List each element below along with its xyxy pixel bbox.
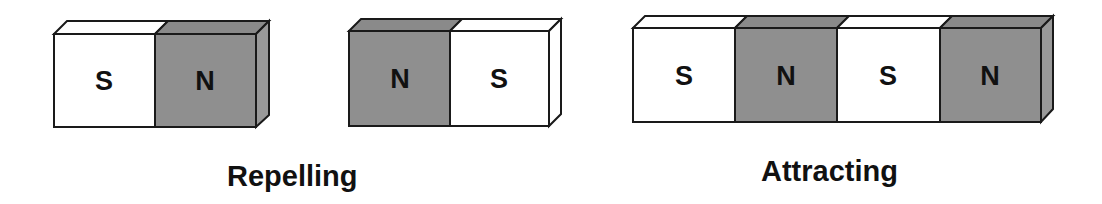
- magnet-3-side: [1041, 16, 1053, 122]
- magnet-2-north-label: N: [390, 64, 410, 94]
- magnet-1-north-top: [155, 21, 269, 34]
- magnet-3a-south-label: S: [675, 61, 693, 91]
- magnet-1-side: [256, 21, 269, 127]
- magnet-3b-north-label: N: [776, 61, 796, 91]
- magnet-2-side: [549, 19, 561, 126]
- magnet-1-south-top: [54, 21, 168, 34]
- magnet-diagram: S N N S S N S N: [0, 0, 1102, 204]
- magnet-3c-south-label: S: [879, 61, 897, 91]
- magnet-1-north-label: N: [195, 66, 215, 96]
- magnet-3c-south-top: [837, 16, 952, 28]
- magnet-2: N S: [349, 19, 561, 126]
- magnet-3d-north-label: N: [980, 61, 1000, 91]
- magnet-3-pair: S N S N: [633, 16, 1053, 122]
- magnet-2-south-label: S: [490, 64, 508, 94]
- magnet-3d-north-top: [940, 16, 1053, 28]
- magnet-3b-north-top: [735, 16, 849, 28]
- attracting-caption: Attracting: [761, 157, 898, 186]
- magnet-2-north-top: [349, 19, 462, 31]
- magnet-1: S N: [54, 21, 269, 127]
- magnet-1-south-label: S: [95, 66, 113, 96]
- magnet-2-south-top: [450, 19, 561, 31]
- magnet-3a-south-top: [633, 16, 747, 28]
- repelling-caption: Repelling: [227, 162, 358, 191]
